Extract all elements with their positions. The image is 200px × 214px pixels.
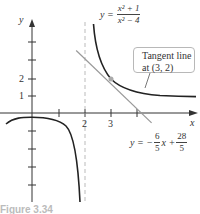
x-axis-label: x [190, 118, 194, 128]
y-axis-label: y [19, 15, 23, 25]
tangent-frac1-num: 6 [154, 132, 161, 143]
tangent-point [109, 77, 114, 82]
tangent-eq-lhs: y = − [130, 138, 153, 148]
figure-caption: Figure 3.34 [0, 204, 53, 214]
x-axis-arrow-icon [189, 110, 198, 116]
tangent-eq-fraction-2: 28 5 [176, 132, 187, 153]
tangent-frac2-den: 5 [176, 143, 187, 153]
y-tick-label-1: 1 [19, 91, 24, 101]
tangent-frac2-num: 28 [176, 132, 187, 143]
tangent-equation: y = − 6 5 x + 28 5 [130, 132, 187, 153]
curve-eq-lhs: y = [100, 10, 114, 20]
curve-eq-numerator: x² + 1 [117, 4, 141, 15]
tangent-eq-x: x + [161, 138, 175, 148]
curve-eq-denominator: x² − 4 [117, 15, 141, 25]
x-tick-label-3: 3 [108, 119, 113, 129]
tangent-callout-box: Tangent line at (3, 2) [133, 47, 195, 73]
curve-middle-branch [6, 117, 80, 202]
curve-eq-fraction: x² + 1 x² − 4 [117, 4, 141, 25]
callout-pointer [145, 73, 150, 88]
y-tick-label-2: 2 [19, 74, 24, 84]
x-tick-label-2: 2 [82, 119, 87, 129]
curve-equation: y = x² + 1 x² − 4 [100, 4, 140, 25]
tangent-eq-fraction-1: 6 5 [154, 132, 161, 153]
callout-line-1: Tangent line [142, 50, 194, 62]
tangent-frac1-den: 5 [154, 143, 161, 153]
callout-line-2: at (3, 2) [142, 62, 194, 74]
y-axis-arrow-icon [29, 19, 35, 27]
graph-canvas [0, 0, 200, 214]
